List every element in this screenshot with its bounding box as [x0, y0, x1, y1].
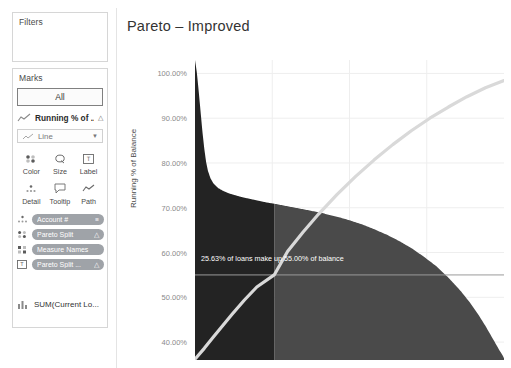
- mark-property-label[interactable]: T Label: [74, 149, 103, 179]
- mark-property-tooltip[interactable]: Tooltip: [46, 179, 75, 209]
- detail-icon: [16, 214, 29, 225]
- bar-chart-icon: [17, 295, 29, 313]
- mark-pill-row[interactable]: T Pareto Split ... △: [16, 258, 104, 271]
- label-icon: T: [16, 259, 29, 270]
- y-axis-tick-label: 60.00%: [162, 248, 187, 257]
- tooltip-icon: [53, 182, 67, 195]
- svg-text:T: T: [20, 261, 24, 267]
- marks-sidebar: Filters Marks All Running % of ... △ Lin…: [0, 8, 116, 368]
- mark-pill-row[interactable]: Measure Names: [16, 243, 104, 256]
- mark-pill-label: Measure Names: [37, 246, 99, 253]
- mark-property-size[interactable]: Size: [46, 149, 75, 179]
- mark-pill[interactable]: Pareto Split △: [32, 229, 104, 240]
- mark-property-detail[interactable]: Detail: [17, 179, 46, 209]
- mark-pill-list: Account # ≡ Pareto Split △: [16, 213, 104, 271]
- delta-icon: △: [92, 261, 99, 269]
- color-icon: [24, 152, 38, 165]
- area-segment-dark: [195, 60, 274, 360]
- y-axis-tick-label: 40.00%: [162, 338, 187, 347]
- line-chart-icon: [17, 109, 31, 127]
- mark-property-tooltip-label: Tooltip: [50, 197, 71, 206]
- y-axis-tick-label: 70.00%: [162, 203, 187, 212]
- mark-pill-row[interactable]: Pareto Split △: [16, 228, 104, 241]
- chart-panel: Pareto – Improved Running % of Balance 1…: [116, 8, 511, 368]
- mark-pill-label: Pareto Split ...: [37, 261, 92, 268]
- mark-property-color-label: Color: [23, 167, 40, 176]
- y-axis-tick-label: 50.00%: [162, 293, 187, 302]
- mark-field-row[interactable]: Running % of ... △: [17, 111, 103, 125]
- filters-title: Filters: [13, 13, 107, 27]
- measure-label: SUM(Current Lo...: [34, 300, 99, 309]
- page-title: Pareto – Improved: [127, 18, 250, 34]
- mark-property-detail-label: Detail: [22, 197, 40, 206]
- mark-property-path[interactable]: Path: [74, 179, 103, 209]
- marks-title: Marks: [13, 69, 107, 83]
- sort-icon: ≡: [93, 216, 99, 223]
- y-axis-tick-label: 90.00%: [162, 114, 187, 123]
- window-top-strip: [0, 0, 511, 8]
- mark-pill[interactable]: Pareto Split ... △: [32, 259, 104, 270]
- mark-property-color[interactable]: Color: [17, 149, 46, 179]
- measure-row[interactable]: SUM(Current Lo...: [17, 295, 105, 313]
- size-icon: [53, 152, 67, 165]
- y-axis-ticks: 100.00%90.00%80.00%70.00%60.00%50.00%40.…: [135, 60, 191, 360]
- plot-area[interactable]: [195, 60, 504, 360]
- y-axis-tick-label: 80.00%: [162, 158, 187, 167]
- detail-icon: [24, 182, 38, 195]
- mark-type-dropdown[interactable]: Line ▼: [17, 129, 103, 143]
- mark-pill[interactable]: Account # ≡: [32, 214, 104, 225]
- mark-pill-label: Pareto Split: [37, 231, 92, 238]
- pareto-chart: [195, 60, 504, 360]
- delta-icon: △: [92, 231, 99, 239]
- delta-icon: △: [98, 114, 103, 122]
- label-icon: T: [82, 152, 96, 165]
- marks-all-label: All: [55, 92, 64, 102]
- color-icon: [16, 229, 29, 240]
- mark-field-label: Running % of ...: [35, 113, 94, 123]
- filters-card[interactable]: Filters: [12, 12, 108, 62]
- marks-all-selector[interactable]: All: [17, 88, 103, 106]
- mark-pill-row[interactable]: Account # ≡: [16, 213, 104, 226]
- y-axis-tick-label: 100.00%: [157, 69, 187, 78]
- chevron-down-icon: ▼: [92, 133, 98, 139]
- mark-type-value: Line: [38, 132, 88, 141]
- mark-properties-grid: Color Size T Label: [17, 149, 103, 209]
- marks-card[interactable]: Marks All Running % of ... △ Line ▼: [12, 68, 108, 328]
- mark-pill-label: Account #: [37, 216, 93, 223]
- svg-text:T: T: [87, 155, 91, 162]
- mark-property-path-label: Path: [81, 197, 96, 206]
- path-icon: [82, 182, 96, 195]
- mark-pill[interactable]: Measure Names: [32, 244, 104, 255]
- mark-property-label-label: Label: [80, 167, 98, 176]
- line-chart-icon: [22, 127, 34, 145]
- mark-property-size-label: Size: [53, 167, 67, 176]
- color-icon: [16, 244, 29, 255]
